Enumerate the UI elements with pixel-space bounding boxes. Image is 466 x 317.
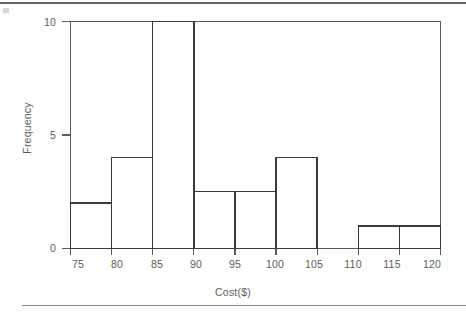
xtick-label-80: 80 (97, 258, 137, 270)
xtick-label-85: 85 (137, 258, 177, 270)
histogram-bar (399, 226, 440, 249)
histogram-bar (276, 158, 317, 249)
xtick-label-115: 115 (372, 258, 412, 270)
y-axis-title: Frequency (21, 88, 33, 168)
histogram-bar (235, 192, 276, 249)
histogram-bar (194, 192, 235, 249)
xtick-label-120: 120 (412, 258, 452, 270)
xtick-label-105: 105 (294, 258, 334, 270)
histogram-bar (112, 158, 153, 249)
histogram-figure: 0 5 10 75 80 85 90 95 100 105 110 115 12… (0, 0, 466, 317)
histogram-bar (358, 226, 399, 249)
histogram-bar (153, 22, 194, 249)
xtick-label-95: 95 (215, 258, 255, 270)
xtick-label-100: 100 (255, 258, 295, 270)
xtick-label-90: 90 (176, 258, 216, 270)
ytick-label-0: 0 (34, 242, 56, 254)
x-axis-title: Cost($) (0, 286, 466, 298)
ytick-label-5: 5 (34, 129, 56, 141)
histogram-bar (71, 203, 112, 248)
ytick-label-10: 10 (34, 16, 56, 28)
histogram-bars (71, 22, 441, 249)
xtick-label-110: 110 (333, 258, 373, 270)
xtick-label-75: 75 (58, 258, 98, 270)
